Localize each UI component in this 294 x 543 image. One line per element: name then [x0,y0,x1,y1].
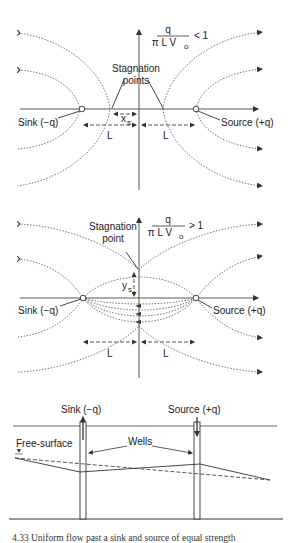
xs-label: x [121,113,126,124]
panel-1-flow-ratio-less-than-1: q π L V o < 1 Stagnation points Sink (−q… [18,24,274,190]
water-table-marker-icon [17,449,21,453]
L-label-right: L [163,130,169,141]
streamline [139,326,262,372]
sink-label: Sink (−q) [18,305,58,316]
stagnation-label: Stagnation [112,63,160,74]
stagnation-label-line2: points [123,75,150,86]
streamline [196,256,262,298]
wells-pointer [89,446,127,453]
streamline [18,326,139,372]
source-label: Source (+q) [221,117,274,128]
ys-subscript: s [128,285,132,294]
ys-label: y [122,280,127,291]
streamline [196,109,262,149]
xs-subscript: s [127,118,131,127]
source-well [194,422,200,519]
stagnation-pointer [148,80,163,108]
sink-label: Sink (−q) [18,117,58,128]
L-label-right: L [163,348,169,359]
diagram-canvas: q π L V o < 1 Stagnation points Sink (−q… [0,0,294,543]
streamline [18,224,262,270]
stagnation-label-line2: point [102,233,124,244]
streamline [196,69,262,109]
ratio-denominator: π L V [148,227,173,238]
L-label-left: L [107,130,113,141]
original-surface-line [15,458,270,480]
ratio-relation: < 1 [194,30,209,41]
ratio-subscript: o [179,232,184,241]
free-surface-label: Free-surface [16,438,73,449]
closed-streamline [83,298,196,310]
wells-pointer [152,446,192,453]
streamline [163,32,262,109]
streamline [18,70,80,149]
ratio-subscript: o [184,42,189,51]
sink-label: Sink (−q) [61,404,101,415]
source-pointer [198,300,212,308]
L-label-left: L [107,348,113,359]
sink-point [80,295,86,301]
panel-2-flow-ratio-greater-than-1: q π L V o > 1 Stagnation point Sink (−q)… [18,214,266,378]
closed-streamline [83,298,196,304]
streamline [18,33,110,186]
stagnation-label: Stagnation [89,221,137,232]
sink-pointer [58,111,80,118]
figure-caption: 4.33 Uniform flow past a sink and source… [12,533,236,543]
closed-streamline [83,277,196,298]
source-label: Source (+q) [213,305,266,316]
wells-label: Wells [128,436,152,447]
source-point [193,295,199,301]
ratio-numerator: q [165,24,171,35]
panel-3-cross-section: Sink (−q) Source (+q) Free-surface Wells [9,404,283,519]
source-pointer [198,111,220,120]
source-label: Source (+q) [168,404,221,415]
ratio-numerator: q [165,214,171,225]
ratio-relation: > 1 [189,220,204,231]
ratio-denominator: π L V [152,37,177,48]
source-point [193,106,199,112]
sink-point [79,106,85,112]
